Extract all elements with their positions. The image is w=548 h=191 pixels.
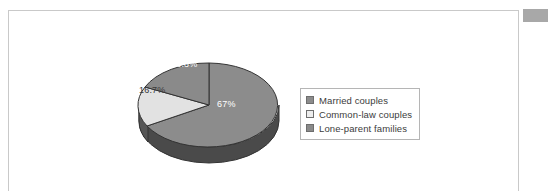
legend-label: Married couples (319, 95, 388, 106)
chart-legend: Married couples Common-law couples Lone-… (300, 88, 420, 140)
pie-label-lone-parent-families: 16.3% (171, 59, 198, 69)
figure-root: 67% 16.7% 16.3% Married couples Common-l… (0, 0, 548, 191)
legend-label: Lone-parent families (319, 123, 407, 134)
legend-swatch-icon (306, 124, 314, 132)
legend-item-common-law-couples[interactable]: Common-law couples (306, 107, 412, 121)
pie-chart: 67% 16.7% 16.3% Married couples Common-l… (17, 21, 528, 191)
pie-label-married-couples: 67% (217, 99, 236, 109)
legend-item-lone-parent-families[interactable]: Lone-parent families (306, 121, 412, 135)
legend-item-married-couples[interactable]: Married couples (306, 93, 412, 107)
corner-block-decoration (523, 9, 548, 22)
figure-frame: 67% 16.7% 16.3% Married couples Common-l… (8, 10, 519, 191)
pie-label-common-law-couples: 16.7% (139, 85, 166, 95)
legend-swatch-icon (306, 110, 314, 118)
legend-label: Common-law couples (319, 109, 412, 120)
legend-swatch-icon (306, 96, 314, 104)
pie-graphic: 67% 16.7% 16.3% (129, 45, 289, 165)
pie-svg (129, 45, 289, 165)
